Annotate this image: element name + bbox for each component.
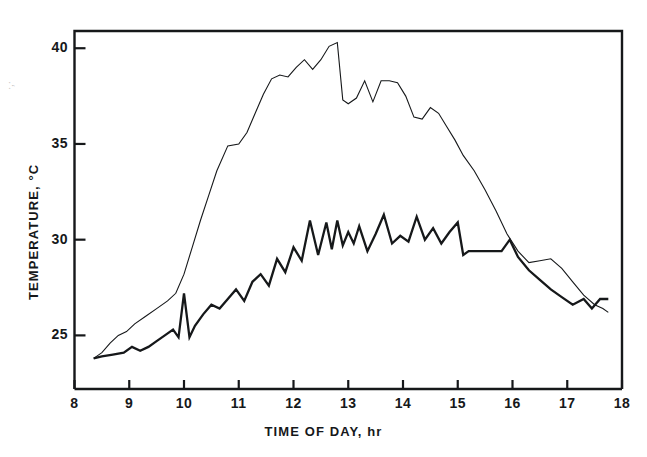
x-tick-label-17: 17 xyxy=(552,395,582,411)
x-tick-label-18: 18 xyxy=(607,395,637,411)
x-tick-label-12: 12 xyxy=(279,395,309,411)
y-tick-label-35: 35 xyxy=(34,135,68,151)
x-tick-label-15: 15 xyxy=(443,395,473,411)
x-tick-label-13: 13 xyxy=(333,395,363,411)
series-upper-curve xyxy=(94,42,609,358)
x-tick-label-8: 8 xyxy=(60,395,90,411)
figure-container: ·,· TEMPERATURE, °C TIME OF DAY, hr 8910… xyxy=(0,0,647,457)
x-tick-label-10: 10 xyxy=(169,395,199,411)
y-tick-label-25: 25 xyxy=(34,326,68,342)
tick-marks xyxy=(75,48,623,389)
y-tick-label-30: 30 xyxy=(34,231,68,247)
chart-plot-area xyxy=(0,0,647,457)
x-tick-label-16: 16 xyxy=(498,395,528,411)
y-tick-label-40: 40 xyxy=(34,39,68,55)
axis-frame xyxy=(75,31,623,389)
series-lower-curve xyxy=(94,215,609,359)
x-tick-label-14: 14 xyxy=(388,395,418,411)
x-tick-label-9: 9 xyxy=(114,395,144,411)
x-axis-title: TIME OF DAY, hr xyxy=(0,424,647,439)
data-series-group xyxy=(94,42,609,358)
x-tick-label-11: 11 xyxy=(224,395,254,411)
